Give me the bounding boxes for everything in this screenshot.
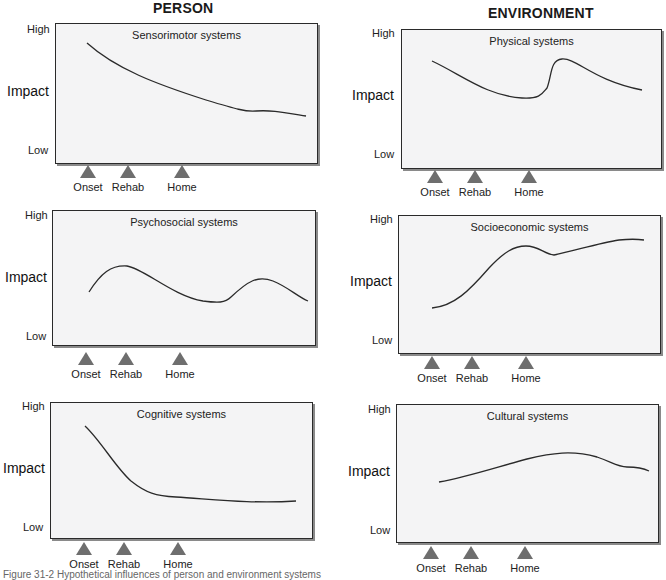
triangle-icon [463,546,479,559]
low-label: Low [370,524,390,536]
triangle-icon [120,165,136,178]
low-label: Low [372,334,392,346]
figure-caption: Figure 31-2 Hypothetical influences of p… [3,569,321,580]
impact-label: Impact [5,269,47,285]
high-label: High [372,27,395,39]
impact-label: Impact [7,83,49,99]
triangle-icon [118,352,134,365]
triangle-icon [170,542,186,555]
low-label: Low [28,144,48,156]
triangle-icon [76,542,92,555]
impact-curve [402,30,663,170]
impact-curve [56,24,319,165]
impact-label: Impact [3,460,45,476]
impact-label: Impact [350,273,392,289]
environment-column-title: ENVIRONMENT [488,5,594,21]
low-label: Low [23,521,43,533]
triangle-icon [467,170,483,183]
triangle-icon [80,165,96,178]
triangle-icon [423,546,439,559]
chart-box: Physical systems [401,29,662,169]
triangle-icon [517,546,533,559]
impact-curve [399,216,662,355]
triangle-icon [172,352,188,365]
high-label: High [25,209,48,221]
high-label: High [368,403,391,415]
person-column-title: PERSON [153,0,213,16]
chart-box: Psychosocial systems [52,210,316,346]
impact-label: Impact [348,463,390,479]
impact-curve [51,403,314,540]
triangle-icon [464,356,480,369]
high-label: High [27,23,50,35]
chart-box: Sensorimotor systems [55,23,318,164]
triangle-icon [424,356,440,369]
chart-box: Cognitive systems [50,402,313,539]
triangle-icon [427,170,443,183]
chart-box: Cultural systems [396,404,659,543]
triangle-icon [116,542,132,555]
triangle-icon [174,165,190,178]
high-label: High [22,400,45,412]
impact-label: Impact [352,87,394,103]
triangle-icon [78,352,94,365]
impact-curve [397,405,660,544]
high-label: High [370,213,393,225]
chart-box: Socioeconomic systems [398,215,661,354]
impact-curve [53,211,317,347]
triangle-icon [518,356,534,369]
low-label: Low [374,148,394,160]
low-label: Low [26,330,46,342]
triangle-icon [521,170,537,183]
